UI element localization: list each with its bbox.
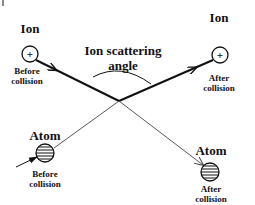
atom-incoming-trajectory bbox=[54, 101, 119, 148]
ion-after-caption-line1: After bbox=[209, 73, 229, 83]
plus-icon: + bbox=[217, 49, 223, 61]
ion-before: + Ion Before collision bbox=[11, 21, 43, 86]
ion-after-caption-line2: collision bbox=[203, 83, 235, 93]
atom-incoming-arrow-icon bbox=[16, 157, 37, 167]
ion-incoming-trajectory bbox=[36, 60, 119, 101]
ion-before-caption-line2: collision bbox=[11, 76, 43, 86]
atom-outgoing-trajectory bbox=[119, 101, 203, 165]
ion-scattering-diagram: + Ion Before collision + Ion After colli… bbox=[0, 0, 255, 205]
angle-label-line1: Ion scattering bbox=[85, 43, 162, 58]
atom-after-caption-line1: After bbox=[201, 184, 221, 194]
ion-before-caption-line1: Before bbox=[14, 66, 39, 76]
atom-after-label: Atom bbox=[195, 143, 226, 158]
atom-before-caption-line1: Before bbox=[32, 169, 57, 179]
atom-before-label: Atom bbox=[29, 128, 60, 143]
ion-after-label: Ion bbox=[210, 10, 230, 25]
angle-label-line2: angle bbox=[108, 58, 138, 73]
ion-before-label: Ion bbox=[21, 21, 41, 36]
plus-icon: + bbox=[27, 48, 33, 60]
atom-after-caption-line2: collision bbox=[195, 194, 227, 204]
ion-after: + Ion After collision bbox=[203, 10, 235, 93]
atom-before-caption-line2: collision bbox=[29, 179, 61, 189]
atom-after: Atom After collision bbox=[195, 143, 227, 204]
